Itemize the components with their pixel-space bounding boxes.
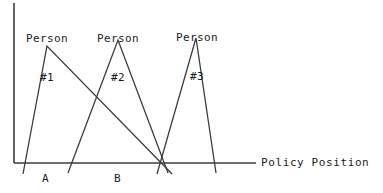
peak-label-person-3-line1: Person bbox=[162, 31, 232, 44]
peak-label-person-3-line2: #3 bbox=[162, 70, 232, 83]
single-peaked-preferences-figure: Person #1 Person #2 Person #3 A B Policy… bbox=[0, 0, 383, 193]
peak-label-person-2-line2: #2 bbox=[83, 71, 153, 84]
peak-label-person-1: Person #1 bbox=[12, 6, 82, 110]
x-axis-tick-label-b: B bbox=[114, 172, 121, 185]
x-axis-tick-label-a: A bbox=[42, 172, 49, 185]
peak-label-person-2: Person #2 bbox=[83, 6, 153, 110]
x-axis-title: Policy Position bbox=[261, 156, 369, 169]
peak-label-person-2-line1: Person bbox=[83, 32, 153, 45]
peak-label-person-1-line2: #1 bbox=[12, 71, 82, 84]
peak-label-person-1-line1: Person bbox=[12, 32, 82, 45]
peak-label-person-3: Person #3 bbox=[162, 5, 232, 109]
